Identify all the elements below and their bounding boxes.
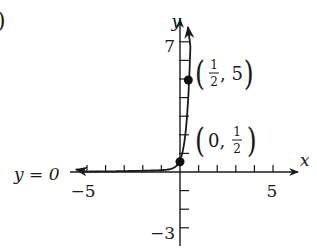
paren-right: ) [247,120,257,160]
asymptote-text: y = 0 [13,164,60,184]
annotation-tail: , 5 [220,63,243,84]
frac-numerator: 1 [210,58,218,72]
y-max-tick-label: 7 [164,36,175,56]
plot-canvas: ) y x 7 −3 −5 5 y = 0 ( 1 2 , 5 [0,0,317,252]
frac-denominator: 2 [210,75,218,89]
x-min-tick-label: −5 [70,181,95,201]
frac-numerator: 1 [233,125,241,139]
annotation-point-0-half: ( 0, 1 2 ) [195,120,257,160]
paren-right: ) [244,53,254,93]
frac-denominator: 2 [233,142,241,156]
annotation-head: 0, [208,130,225,151]
panel-label-fragment: ) [0,8,6,33]
asymptote-label: y = 0 [13,164,60,184]
annotation-point-half-5: ( 1 2 , 5 ) [195,53,254,93]
paren-left: ( [195,120,205,160]
point-0-half [176,157,185,166]
exponential-graph-figure: ) y x 7 −3 −5 5 y = 0 ( 1 2 , 5 [0,0,317,252]
axes [70,19,298,246]
x-axis-label: x [300,150,310,170]
y-min-tick-label: −3 [150,223,175,243]
x-max-tick-label: 5 [267,181,278,201]
y-axis-label: y [170,11,181,31]
paren-left: ( [195,53,205,93]
point-half-5 [184,76,193,85]
